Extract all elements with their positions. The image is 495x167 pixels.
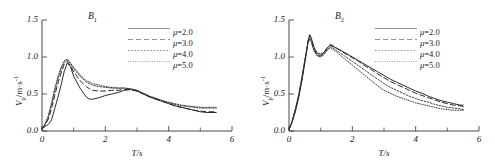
legend-label: μ=5.0 — [420, 60, 440, 70]
x-tick-label: 0 — [279, 134, 299, 144]
legend-swatch-dashed — [128, 38, 170, 40]
legend-label: μ=2.0 — [420, 27, 440, 37]
x-tick-label: 2 — [95, 134, 115, 144]
series-line-3 — [42, 60, 216, 129]
y-tick-label: 1.5 — [261, 14, 285, 24]
x-tick-label: 6 — [469, 134, 489, 144]
y-tick-label: 1.5 — [14, 14, 38, 24]
legend-swatch-dotted — [128, 49, 170, 51]
x-tick-label: 4 — [406, 134, 426, 144]
y-axis-title: Vp/m·s-1 — [259, 75, 273, 105]
legend-label: μ=3.0 — [420, 38, 440, 48]
legend-swatch-fine-dotted — [128, 60, 170, 62]
legend-swatch-dotted — [375, 49, 417, 51]
legend-swatch-fine-dotted — [375, 60, 417, 62]
y-tick-label: 1.0 — [14, 51, 38, 61]
figure-two-panel-line-charts: 0.00.51.01.50246T/sVp/m·s-1B1μ=2.0μ=3.0μ… — [0, 0, 495, 167]
x-tick-label: 6 — [222, 134, 242, 144]
x-axis-title: T/s — [369, 148, 399, 158]
legend-label: μ=4.0 — [173, 49, 193, 59]
panel-label: B2 — [335, 11, 344, 23]
legend-label: μ=5.0 — [173, 60, 193, 70]
legend-swatch-dashed — [375, 38, 417, 40]
series-line-1 — [42, 63, 216, 129]
legend-swatch-solid — [128, 27, 170, 29]
y-axis-title: Vp/m·s-1 — [12, 75, 26, 105]
y-tick-label: 1.0 — [261, 51, 285, 61]
x-tick-label: 4 — [159, 134, 179, 144]
legend-label: μ=2.0 — [173, 27, 193, 37]
chart-panel-b1: 0.00.51.01.50246T/sVp/m·s-1B1μ=2.0μ=3.0μ… — [0, 0, 247, 167]
series-line-2 — [42, 61, 216, 128]
chart-panel-b2: 0.00.51.01.50246T/sVp/m·s-1B2μ=2.0μ=3.0μ… — [247, 0, 494, 167]
legend-label: μ=4.0 — [420, 49, 440, 59]
x-axis-title: T/s — [122, 148, 152, 158]
panel-label: B1 — [88, 11, 97, 23]
x-tick-label: 0 — [32, 134, 52, 144]
x-tick-label: 2 — [342, 134, 362, 144]
legend-swatch-solid — [375, 27, 417, 29]
legend-label: μ=3.0 — [173, 38, 193, 48]
